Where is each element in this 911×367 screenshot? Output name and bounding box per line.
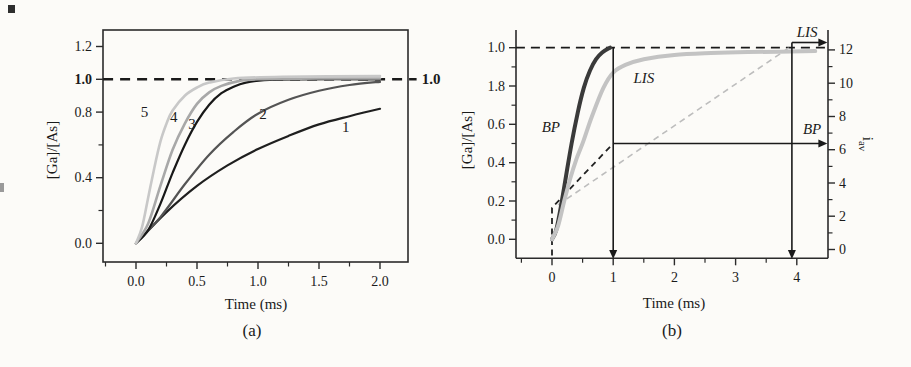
y-tick-label: 0.4 xyxy=(75,170,93,185)
right-y-tick-label: 2 xyxy=(839,209,846,224)
x-tick-label: 1.0 xyxy=(249,274,267,289)
y-tick-label: 0.6 xyxy=(488,117,506,132)
x-tick-label: 0.0 xyxy=(127,274,145,289)
y-tick-label: 0.2 xyxy=(488,194,506,209)
y-tick-label: 1.2 xyxy=(75,39,93,54)
saturation-value-label: 1.0 xyxy=(422,71,441,87)
panel-a-caption: (a) xyxy=(243,321,262,341)
panel-a-x-axis-title: Time (ms) xyxy=(225,296,287,313)
y-tick-label: 1.0 xyxy=(488,40,506,55)
curve-label-2: 2 xyxy=(259,106,267,122)
panel-a: 0.00.51.01.52.00.00.40.81.01.21.054321 xyxy=(75,30,441,289)
lis-average-dashed xyxy=(558,46,792,205)
right-y-tick-label: 12 xyxy=(839,42,853,57)
bp-arrow-label: BP xyxy=(803,121,821,137)
lis-curve-label: LIS xyxy=(632,70,654,86)
x-tick-label: 2.0 xyxy=(371,274,389,289)
bp-curve-label: BP xyxy=(542,119,560,135)
y-tick-label: 1.8 xyxy=(488,79,506,94)
curve-label-1: 1 xyxy=(342,119,350,135)
panel-a-y-axis-title: [Ga]/[As] xyxy=(44,121,61,179)
panel-b-x-axis-title: Time (ms) xyxy=(643,295,705,312)
x-tick-label: 0 xyxy=(549,270,556,285)
right-y-tick-label: 8 xyxy=(839,109,846,124)
right-y-tick-label: 0 xyxy=(839,242,846,257)
x-tick-label: 1 xyxy=(610,270,617,285)
x-tick-label: 1.5 xyxy=(310,274,328,289)
panel-b-right-axis-title: iav xyxy=(857,137,876,152)
series-4 xyxy=(136,78,380,243)
curve-label-5: 5 xyxy=(141,104,149,120)
series-3 xyxy=(136,79,380,243)
scan-artifact xyxy=(0,183,4,192)
series-2 xyxy=(136,82,380,244)
series-LIS xyxy=(552,51,815,239)
y-tick-label: 0.8 xyxy=(75,105,93,120)
right-y-tick-label: 4 xyxy=(839,176,846,191)
lis-iav-arrow-head xyxy=(818,39,827,47)
x-tick-label: 0.5 xyxy=(188,274,206,289)
panel-b-y-axis-title: [Ga]/[As] xyxy=(459,111,476,169)
curve-label-3: 3 xyxy=(188,116,196,132)
figure: 0.00.51.01.52.00.00.40.81.01.21.05432101… xyxy=(0,0,911,367)
y-tick-label: 1.0 xyxy=(75,72,93,87)
panel-b: 012340.00.20.40.61.81.0024681012BPLISBPL… xyxy=(488,24,854,286)
curve-label-4: 4 xyxy=(170,109,178,125)
series-5 xyxy=(136,76,380,243)
panel-b-caption: (b) xyxy=(662,321,682,341)
y-tick-label: 0.4 xyxy=(488,155,506,170)
right-y-tick-label: 10 xyxy=(839,76,853,91)
x-tick-label: 4 xyxy=(793,270,800,285)
lis-arrow-label: LIS xyxy=(796,24,818,40)
y-tick-label: 0.0 xyxy=(488,232,506,247)
plot-canvas: 0.00.51.01.52.00.00.40.81.01.21.05432101… xyxy=(0,0,911,367)
x-tick-label: 2 xyxy=(671,270,678,285)
scan-artifact xyxy=(8,5,15,13)
x-tick-label: 3 xyxy=(732,270,739,285)
bp-iav-arrow-head xyxy=(818,140,827,148)
y-tick-label: 0.0 xyxy=(75,236,93,251)
right-axis-title-sub: av xyxy=(857,141,869,151)
right-y-tick-label: 6 xyxy=(839,142,846,157)
